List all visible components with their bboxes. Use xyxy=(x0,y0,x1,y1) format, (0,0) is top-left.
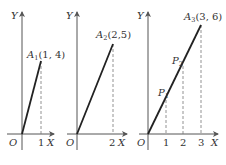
origin-label: O xyxy=(9,137,17,148)
origin-label: O xyxy=(66,137,74,148)
segment-OA1 xyxy=(22,61,41,134)
y-axis-label: Y xyxy=(66,10,74,21)
x-tick-label: 1 xyxy=(38,137,44,148)
x-tick-label: 2 xyxy=(180,137,186,148)
segment-OA2 xyxy=(77,44,113,134)
origin-label: O xyxy=(137,137,145,148)
x-tick-label: 1 xyxy=(163,137,169,148)
figure: Y X O 1 A1(1, 4) Y X O 2 A2(2,5) Y X O 1… xyxy=(0,0,226,165)
x-axis-label: X xyxy=(46,137,55,148)
x-tick-label: 2 xyxy=(109,137,115,148)
point-label-A2: A2(2,5) xyxy=(95,29,131,42)
point-label-A1: A1(1, 4) xyxy=(26,49,65,62)
x-tick-label: 3 xyxy=(198,137,204,148)
point-label-A3: A3(3, 6) xyxy=(183,11,222,24)
point-label-P2: P2 xyxy=(171,55,183,68)
point-label-P1: P1 xyxy=(157,87,169,100)
x-axis-label: X xyxy=(210,137,219,148)
segment-OA3 xyxy=(148,25,201,134)
panel-3: Y X O 1 2 3 P1 P2 A3(3, 6) xyxy=(137,10,222,150)
y-axis-label: Y xyxy=(11,10,19,21)
y-axis-label: Y xyxy=(137,10,145,21)
panel-1: Y X O 1 A1(1, 4) xyxy=(7,10,65,150)
x-axis-label: X xyxy=(117,137,126,148)
panel-2: Y X O 2 A2(2,5) xyxy=(66,10,131,150)
